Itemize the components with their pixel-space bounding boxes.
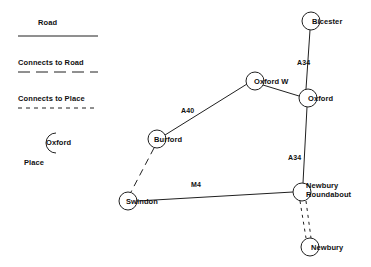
- node-label-bicester: Bicester: [312, 17, 342, 26]
- legend-connects-to-road-label: Connects to Road: [18, 58, 84, 67]
- edge-burford-oxfordw: [165, 84, 247, 135]
- edge-swindon-newbury-roundabout: [137, 192, 293, 201]
- node-label-newbury: Newbury: [311, 243, 343, 252]
- edge-burford-swindon: [131, 148, 154, 192]
- edge-newbury-roundabout-newbury-a: [300, 201, 306, 238]
- edge-label-m4: M4: [191, 181, 201, 188]
- edge-newbury-roundabout-newbury-b: [306, 201, 311, 238]
- legend-connects-to-place-label: Connects to Place: [18, 94, 85, 103]
- legend-place-caption: Place: [24, 158, 44, 167]
- edge-oxfordw-oxford: [263, 85, 299, 96]
- node-label-burford: Burford: [154, 135, 182, 144]
- edge-label-a34-oxford-newbury: A34: [288, 154, 301, 161]
- edge-label-a40: A40: [181, 107, 194, 114]
- node-label-swindon: Swindon: [126, 197, 158, 206]
- diagram-canvas: [0, 0, 371, 267]
- edge-label-a34-bicester-oxford: A34: [297, 59, 310, 66]
- node-label-newbury-roundabout: Newbury Roundabout: [306, 182, 370, 199]
- node-label-oxford-w: Oxford W: [254, 77, 289, 86]
- edge-oxford-newbury-roundabout: [303, 107, 307, 183]
- node-label-oxford: Oxford: [308, 94, 333, 103]
- legend-road-label: Road: [38, 18, 57, 27]
- legend-place-example-label: Oxford: [46, 138, 71, 147]
